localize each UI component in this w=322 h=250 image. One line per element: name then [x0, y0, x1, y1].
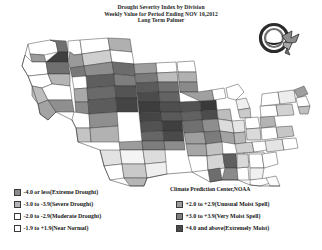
- legend-item: -1.9 to +1.9(Near Normal): [14, 222, 101, 234]
- legend-swatch-icon: [176, 213, 183, 220]
- legend-item-label: -2.0 to -2.9(Moderate Drought): [24, 213, 102, 220]
- title-line-1: Drought Severity Index by Division: [0, 4, 322, 11]
- legend-item: -2.0 to -2.9(Moderate Drought): [14, 210, 101, 222]
- legend-item-label: -1.9 to +1.9(Near Normal): [24, 225, 89, 232]
- legend-swatch-icon: [14, 189, 21, 196]
- legend-item-label: +4.0 and above(Extremely Moist): [186, 225, 270, 232]
- legend-item-label: -3.0 to -3.9(Severe Drought): [24, 201, 94, 208]
- legend-swatch-icon: [176, 225, 183, 232]
- legend-drought-column: -4.0 or less(Extreme Drought) -3.0 to -3…: [14, 186, 101, 234]
- drought-map-page: Drought Severity Index by Division Weekl…: [0, 0, 322, 250]
- legend-swatch-icon: [14, 225, 21, 232]
- legend-swatch-icon: [14, 201, 21, 208]
- legend: -4.0 or less(Extreme Drought) -3.0 to -3…: [0, 186, 322, 246]
- legend-moist-column: +2.0 to +2.9(Unusual Moist Spell) +3.0 t…: [176, 186, 269, 234]
- legend-swatch-icon: [176, 201, 183, 208]
- legend-item-label: -4.0 or less(Extreme Drought): [24, 189, 99, 196]
- us-drought-map: [4, 28, 318, 188]
- map-svg: [4, 28, 318, 188]
- legend-item: +2.0 to +2.9(Unusual Moist Spell): [176, 198, 269, 210]
- legend-item: +4.0 and above(Extremely Moist): [176, 222, 269, 234]
- legend-item: -3.0 to -3.9(Severe Drought): [14, 198, 101, 210]
- legend-item: +3.0 to +3.9(Very Moist Spell): [176, 210, 269, 222]
- page-title: Drought Severity Index by Division Weekl…: [0, 4, 322, 24]
- legend-item-label: +2.0 to +2.9(Unusual Moist Spell): [186, 201, 270, 208]
- legend-swatch-icon: [14, 213, 21, 220]
- legend-item-label: +3.0 to +3.9(Very Moist Spell): [186, 213, 261, 220]
- legend-item: -4.0 or less(Extreme Drought): [14, 186, 101, 198]
- title-line-2: Weekly Value for Period Ending NOV 10,20…: [0, 11, 322, 18]
